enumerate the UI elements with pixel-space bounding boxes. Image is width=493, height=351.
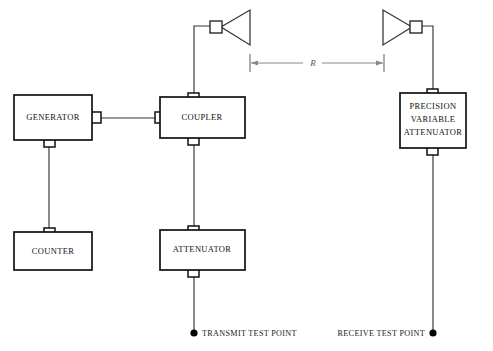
generator-label: GENERATOR [26, 112, 80, 122]
transmit-test-point: TRANSMIT TEST POINT [190, 329, 296, 338]
transmit-test-point-dot [190, 329, 197, 336]
receive-test-point-dot [429, 329, 436, 336]
antenna-range-diagram: R GENERATOR COUPLER COUNTER [0, 0, 493, 351]
attenuator-unit: ATTENUATOR [160, 226, 245, 277]
horn-antenna-icon [383, 10, 412, 45]
precision-attenuator-label-line3: ATTENUATOR [404, 127, 463, 137]
antenna-feed-connector [410, 21, 422, 33]
coupler-unit: COUPLER [155, 93, 245, 145]
precision-attenuator-label-line1: PRECISION [409, 101, 456, 111]
range-label: R [309, 58, 316, 68]
receive-test-point: RECEIVE TEST POINT [338, 329, 437, 338]
antenna-feed-connector [210, 21, 222, 33]
horn-antenna-icon [221, 10, 250, 45]
dimension-arrowhead-right [376, 61, 383, 66]
transmit-test-point-label: TRANSMIT TEST POINT [202, 329, 297, 338]
dimension-arrowhead-left [251, 61, 258, 66]
wire-coupler-to-transmit-antenna [194, 26, 213, 100]
precision-attenuator-label-line2: VARIABLE [411, 114, 456, 124]
range-dimension: R [250, 54, 384, 72]
coupler-label: COUPLER [181, 112, 222, 122]
counter-label: COUNTER [32, 246, 75, 256]
precision-variable-attenuator-unit: PRECISION VARIABLE ATTENUATOR [400, 89, 466, 155]
attenuator-label: ATTENUATOR [173, 244, 232, 254]
wire-receive-antenna-to-precision-attenuator [421, 26, 433, 93]
diagram-canvas: R GENERATOR COUPLER COUNTER [0, 0, 493, 351]
receive-test-point-label: RECEIVE TEST POINT [338, 329, 425, 338]
counter-unit: COUNTER [14, 228, 92, 270]
transmit-antenna [210, 10, 250, 45]
receive-antenna [383, 10, 422, 45]
generator-unit: GENERATOR [14, 95, 101, 147]
